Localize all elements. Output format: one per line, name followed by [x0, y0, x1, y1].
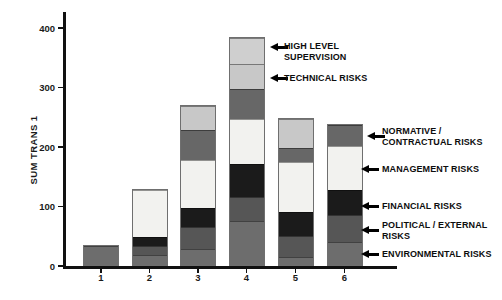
arrow-head-icon — [361, 226, 369, 234]
segment-financial-risks — [328, 190, 362, 215]
arrow-head-icon — [367, 132, 375, 140]
segment-normative-contractual-risks — [230, 89, 264, 119]
segment-management-risks — [328, 146, 362, 190]
arrow-head-icon — [270, 74, 278, 82]
segment-political-external-risks — [230, 197, 264, 221]
x-tick-label-5: 5 — [286, 272, 306, 283]
arrow-head-icon — [361, 165, 369, 173]
x-tick-label-3: 3 — [188, 272, 208, 283]
segment-technical-risks — [279, 119, 313, 148]
annotation-label-environmental-risks: ENVIRONMENTAL RISKS — [382, 249, 492, 260]
y-tick-label: 0 — [23, 261, 55, 272]
y-tick-label: 200 — [23, 142, 55, 153]
arrow-head-icon — [361, 250, 369, 258]
y-tick-mark — [58, 146, 63, 148]
segment-management-risks — [230, 119, 264, 164]
segment-environmental-risks — [133, 255, 167, 265]
segment-high-level-supervision — [230, 38, 264, 65]
bar-5 — [278, 118, 314, 266]
annotation-label-technical-risks: TECHNICAL RISKS — [284, 73, 367, 84]
annotation-arrow-political-external-risks — [361, 226, 379, 234]
annotation-arrow-management-risks — [361, 165, 379, 173]
arrow-tail — [369, 229, 379, 232]
annotation-label-management-risks: MANAGEMENT RISKS — [382, 164, 479, 175]
stacked-bar-chart: SUM TRANS 1 0100200300400 123456 HIGH LE… — [0, 0, 502, 300]
y-tick-label: 100 — [23, 201, 55, 212]
segment-environmental-risks — [279, 257, 313, 265]
x-axis-line — [63, 266, 397, 269]
y-tick-mark — [58, 87, 63, 89]
segment-management-risks — [133, 190, 167, 236]
bar-3 — [180, 105, 216, 266]
segment-management-risks — [181, 160, 215, 208]
y-axis-line — [63, 12, 66, 268]
annotation-label-political-external-risks: POLITICAL / EXTERNAL RISKS — [382, 220, 487, 241]
segment-management-risks — [279, 162, 313, 211]
arrow-tail — [369, 168, 379, 171]
segment-environmental-risks — [84, 246, 118, 265]
x-tick-label-6: 6 — [335, 272, 355, 283]
y-tick-label: 300 — [23, 82, 55, 93]
y-tick-mark — [58, 206, 63, 208]
annotation-label-high-level-supervision: HIGH LEVEL SUPERVISION — [284, 41, 346, 62]
bar-2 — [132, 189, 168, 266]
arrow-head-icon — [270, 43, 278, 51]
bar-4 — [229, 37, 265, 266]
segment-environmental-risks — [181, 249, 215, 265]
annotation-arrow-environmental-risks — [361, 250, 379, 258]
segment-environmental-risks — [230, 221, 264, 265]
arrow-head-icon — [361, 202, 369, 210]
segment-financial-risks — [133, 237, 167, 247]
y-tick-label: 400 — [23, 23, 55, 34]
annotation-label-normative-contractual-risks: NORMATIVE / CONTRACTUAL RISKS — [382, 126, 483, 147]
x-tick-label-2: 2 — [140, 272, 160, 283]
segment-financial-risks — [279, 212, 313, 237]
segment-technical-risks — [181, 106, 215, 131]
segment-technical-risks — [230, 64, 264, 89]
segment-financial-risks — [230, 164, 264, 198]
x-tick-label-1: 1 — [91, 272, 111, 283]
bar-6 — [327, 124, 363, 266]
segment-political-external-risks — [133, 246, 167, 254]
y-tick-mark — [58, 27, 63, 29]
segment-political-external-risks — [279, 236, 313, 257]
segment-political-external-risks — [181, 227, 215, 249]
segment-environmental-risks — [328, 242, 362, 265]
segment-normative-contractual-risks — [181, 130, 215, 160]
segment-financial-risks — [181, 208, 215, 227]
x-tick-label-4: 4 — [237, 272, 257, 283]
annotation-arrow-financial-risks — [361, 202, 379, 210]
bar-1 — [83, 245, 119, 266]
arrow-tail — [369, 205, 379, 208]
annotation-label-financial-risks: FINANCIAL RISKS — [382, 201, 462, 212]
y-tick-mark — [58, 265, 63, 267]
segment-political-external-risks — [328, 215, 362, 242]
segment-normative-contractual-risks — [328, 125, 362, 146]
arrow-tail — [369, 253, 379, 256]
segment-normative-contractual-risks — [279, 148, 313, 163]
